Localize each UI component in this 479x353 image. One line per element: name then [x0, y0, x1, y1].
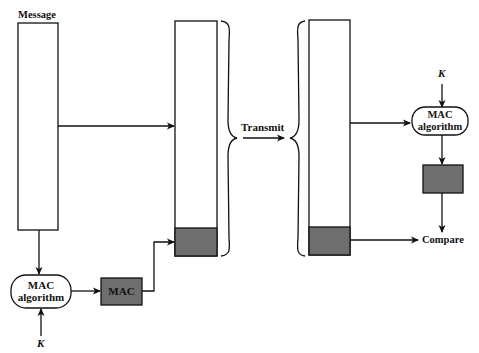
- sender-mac-algorithm-line2: algorithm: [11, 291, 71, 303]
- receiver-computed-mac-box: [423, 165, 463, 193]
- receiver-packet-mac-band: [309, 227, 350, 255]
- receiver-key-label: K: [438, 67, 445, 79]
- receiver-mac-algorithm-label: MAC algorithm: [412, 109, 468, 133]
- message-label: Message: [18, 9, 56, 21]
- sender-key-label: K: [37, 337, 44, 349]
- receiver-mac-algorithm-line1: MAC: [412, 109, 468, 121]
- sender-mac-algorithm-label: MAC algorithm: [11, 279, 71, 303]
- compare-label: Compare: [422, 234, 464, 246]
- receiver-mac-algorithm-line2: algorithm: [412, 121, 468, 133]
- receiver-brace: [290, 21, 305, 256]
- sender-packet-column: [175, 21, 217, 256]
- sender-mac-algorithm-line1: MAC: [11, 279, 71, 291]
- transmit-label: Transmit: [241, 121, 284, 133]
- sender-packet-mac-band: [175, 228, 217, 256]
- mac-diagram-canvas: [0, 0, 479, 353]
- message-block: [18, 23, 58, 230]
- sender-brace: [221, 21, 237, 256]
- receiver-packet-column: [309, 20, 350, 255]
- sender-mac-box-label: MAC: [101, 285, 142, 297]
- arrow-mac-to-packet: [142, 242, 174, 291]
